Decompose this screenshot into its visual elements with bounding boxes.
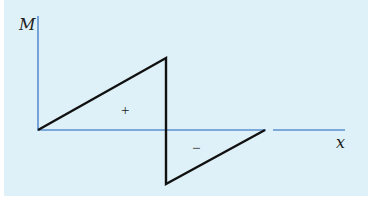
negative-region-label: − [192, 140, 200, 156]
m-axis-label: M [18, 15, 36, 34]
moment-curve [38, 58, 265, 184]
positive-region-label: + [121, 102, 129, 118]
x-axis-label: x [336, 133, 345, 152]
moment-diagram: M x + − [0, 0, 372, 204]
